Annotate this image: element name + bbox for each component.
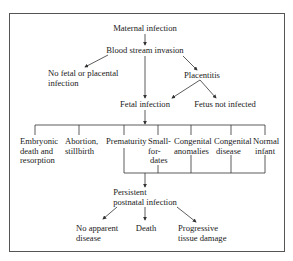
node-label: Blood stream invasion — [106, 45, 183, 55]
node-label: anomalies — [174, 147, 212, 157]
node-label: Death — [136, 223, 157, 233]
node-label: postnatal infection — [113, 198, 177, 208]
node-label: Maternal infection — [113, 23, 177, 33]
node-congenital-anomalies: Congenitalanomalies — [174, 137, 212, 156]
node-label: resorption — [20, 156, 58, 166]
node-label: Fetal infection — [120, 99, 170, 109]
node-prematurity: Prematurity — [106, 137, 147, 147]
node-placentitis: Placentitis — [184, 71, 220, 81]
node-label: infection — [48, 79, 118, 89]
node-label: infant — [253, 147, 279, 157]
node-maternal-infection: Maternal infection — [113, 24, 177, 34]
node-label: disease — [76, 234, 118, 244]
node-no-fetal-placental: No fetal or placentalinfection — [48, 69, 118, 88]
node-small-for-dates: Small-for-dates — [148, 137, 171, 166]
node-label: tissue damage — [178, 234, 226, 244]
node-congenital-disease: Congenitaldisease — [214, 137, 252, 156]
node-label: Prematurity — [106, 137, 147, 147]
connector-lines — [0, 0, 293, 261]
node-fetus-not-infected: Fetus not infected — [194, 100, 256, 110]
node-label: stillbirth — [65, 147, 98, 157]
node-progressive-tissue-damage: Progressivetissue damage — [178, 224, 226, 243]
node-abortion-stillbirth: Abortion,stillbirth — [65, 137, 98, 156]
node-normal-infant: Normalinfant — [253, 137, 279, 156]
node-label: dates — [148, 156, 171, 166]
node-label: Placentitis — [184, 70, 220, 80]
node-label: disease — [214, 147, 252, 157]
node-no-apparent-disease: No apparentdisease — [76, 224, 118, 243]
node-persistent-postnatal-infection: Persistentpostnatal infection — [113, 188, 177, 207]
node-blood-stream-invasion: Blood stream invasion — [106, 46, 183, 56]
node-death: Death — [136, 224, 157, 234]
node-label: Fetus not infected — [194, 99, 256, 109]
node-embryonic-death: Embryonicdeath andresorption — [20, 137, 58, 166]
node-fetal-infection: Fetal infection — [120, 100, 170, 110]
